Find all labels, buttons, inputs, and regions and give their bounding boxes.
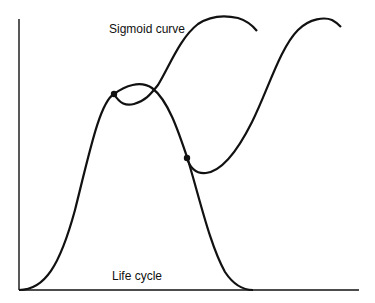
second-sigmoid-curve — [187, 19, 341, 174]
sigmoid-curve-label: Sigmoid curve — [109, 22, 185, 36]
branch-point-1 — [111, 91, 117, 97]
life-cycle-curve — [19, 84, 253, 290]
branch-point-2 — [184, 155, 190, 161]
sigmoid-diagram: Sigmoid curve Life cycle — [0, 0, 375, 303]
life-cycle-label: Life cycle — [112, 269, 162, 283]
